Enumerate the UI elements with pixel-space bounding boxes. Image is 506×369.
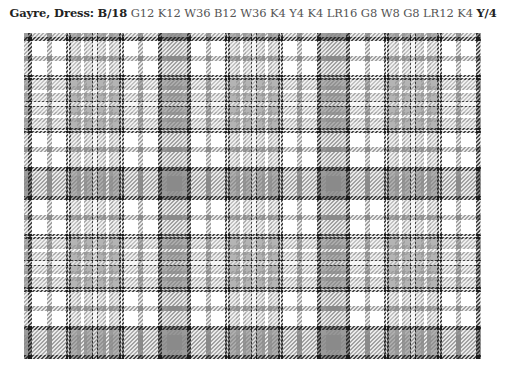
tartan-pattern: [24, 33, 481, 359]
pivot-end: Y/4: [476, 6, 496, 20]
tartan-name: Gayre, Dress:: [9, 6, 94, 20]
pivot-start: B/18: [98, 6, 128, 20]
threadcount: G12 K12 W36 B12 W36 K4 Y4 K4 LR16 G8 W8 …: [131, 6, 473, 20]
tartan-title: Gayre, Dress: B/18 G12 K12 W36 B12 W36 K…: [0, 6, 506, 20]
